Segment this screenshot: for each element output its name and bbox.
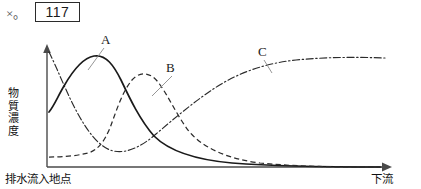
figure-page: ×。 117 物 質 濃 度 排水流入地点 下流 A B C (0, 0, 421, 189)
leader-line-a (88, 48, 104, 70)
chart-svg (0, 0, 421, 189)
axes (43, 44, 392, 171)
y-axis-arrowhead (43, 44, 51, 53)
curve-c-dashdot (49, 52, 385, 152)
curve-b-dashed (49, 74, 382, 167)
leader-line-c (264, 60, 272, 73)
x-axis-arrowhead (382, 163, 392, 172)
